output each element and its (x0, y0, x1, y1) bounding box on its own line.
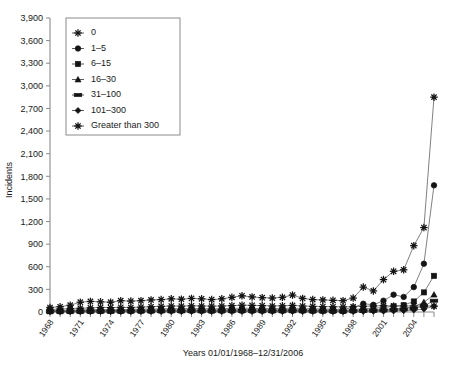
data-point-marker (75, 61, 80, 66)
data-point-marker (157, 296, 165, 304)
y-tick-label: 3,600 (20, 36, 43, 46)
data-point-marker (349, 294, 357, 302)
y-tick-label: 1,800 (20, 172, 43, 182)
data-point-marker (410, 242, 418, 250)
x-tick-label: 2001 (370, 317, 389, 338)
data-point-marker (360, 283, 368, 291)
data-point-marker (289, 291, 297, 299)
data-point-marker (74, 29, 82, 37)
data-point-marker (390, 268, 398, 276)
data-point-marker (168, 295, 176, 303)
y-tick-label: 1,500 (20, 194, 43, 204)
data-point-marker (218, 295, 226, 303)
data-point-marker (258, 294, 266, 302)
data-point-marker (401, 294, 407, 300)
chart-legend: 01–56–1516–3031–100101–300Greater than 3… (66, 18, 180, 135)
x-tick-label: 1995 (309, 317, 328, 338)
data-point-marker (46, 304, 54, 312)
data-point-marker (380, 276, 388, 284)
data-point-marker (421, 299, 427, 304)
legend-item-label: 1–5 (91, 43, 106, 53)
data-point-marker (198, 295, 206, 303)
data-point-marker (370, 287, 378, 295)
data-point-marker (339, 297, 347, 305)
y-tick-label: 2,700 (20, 104, 43, 114)
data-point-marker (299, 295, 307, 303)
data-point-marker (381, 298, 387, 304)
legend-item-label: 16–30 (91, 74, 116, 84)
x-tick-label: 2004 (400, 317, 419, 338)
data-point-marker (431, 183, 437, 189)
y-tick-label: 900 (28, 239, 43, 249)
data-point-marker (431, 273, 436, 278)
y-tick-label: 2,400 (20, 126, 43, 136)
data-point-marker (411, 284, 417, 290)
x-axis-ticks: 1968197119741977198019831986198919921995… (37, 312, 434, 339)
incidents-line-chart: 03006009001,2001,5001,8002,1002,4002,700… (0, 0, 449, 366)
data-point-marker (188, 295, 196, 303)
x-tick-label: 1971 (67, 317, 86, 338)
x-tick-label: 1998 (340, 317, 359, 338)
data-point-marker (75, 46, 81, 52)
legend-box (66, 18, 180, 135)
x-tick-label: 1986 (218, 317, 237, 338)
data-point-marker (361, 301, 367, 307)
data-point-marker (87, 298, 95, 306)
x-axis-title: Years 01/01/1968–12/31/2006 (183, 348, 303, 358)
y-tick-label: 3,000 (20, 81, 43, 91)
data-point-marker (74, 94, 82, 97)
legend-item-label: 31–100 (91, 89, 121, 99)
series-line (50, 185, 434, 310)
data-point-marker (430, 299, 438, 302)
chart-container: 03006009001,2001,5001,8002,1002,4002,700… (0, 0, 449, 366)
data-point-marker (56, 303, 64, 311)
data-point-marker (431, 292, 437, 297)
data-point-marker (117, 297, 125, 305)
data-point-marker (421, 261, 427, 267)
x-tick-label: 1968 (37, 317, 56, 338)
data-point-marker (430, 93, 438, 101)
legend-item-label: Greater than 300 (91, 120, 159, 130)
data-point-marker (137, 297, 145, 305)
y-tick-label: 600 (28, 262, 43, 272)
legend-item-label: 101–300 (91, 105, 126, 115)
y-tick-label: 3,900 (20, 13, 43, 23)
y-axis-ticks: 03006009001,2001,5001,8002,1002,4002,700… (20, 13, 50, 317)
y-axis-title: Incidents (4, 161, 14, 198)
data-point-marker (107, 298, 115, 306)
y-tick-label: 300 (28, 285, 43, 295)
legend-item-label: 6–15 (91, 58, 111, 68)
x-tick-label: 1980 (158, 317, 177, 338)
data-point-marker (178, 295, 186, 303)
x-axis-group: 1968197119741977198019831986198919921995… (37, 312, 434, 358)
data-point-marker (279, 294, 287, 302)
y-tick-label: 3,300 (20, 58, 43, 68)
data-point-marker (269, 294, 277, 302)
data-point-marker (420, 224, 428, 232)
y-axis-group: 03006009001,2001,5001,8002,1002,4002,700… (4, 13, 50, 317)
data-point-marker (400, 266, 408, 274)
x-tick-label: 1983 (188, 317, 207, 338)
data-point-marker (77, 298, 85, 306)
data-point-marker (391, 292, 397, 298)
data-point-marker (208, 296, 216, 304)
data-point-marker (248, 293, 256, 301)
y-tick-label: 2,100 (20, 149, 43, 159)
x-tick-label: 1974 (97, 317, 116, 338)
data-point-marker (228, 294, 236, 302)
y-tick-label: 1,200 (20, 217, 43, 227)
data-point-marker (238, 292, 246, 300)
data-point-marker (309, 296, 317, 304)
x-tick-label: 1977 (128, 317, 147, 338)
data-point-marker (319, 296, 327, 304)
data-point-marker (421, 290, 426, 295)
data-point-marker (66, 301, 74, 309)
data-point-marker (147, 296, 155, 304)
data-point-marker (329, 297, 337, 305)
data-point-marker (127, 297, 135, 305)
data-point-marker (97, 298, 105, 306)
x-tick-label: 1989 (249, 317, 268, 338)
data-point-marker (74, 122, 82, 130)
x-tick-label: 1992 (279, 317, 298, 338)
y-tick-label: 0 (38, 307, 43, 317)
